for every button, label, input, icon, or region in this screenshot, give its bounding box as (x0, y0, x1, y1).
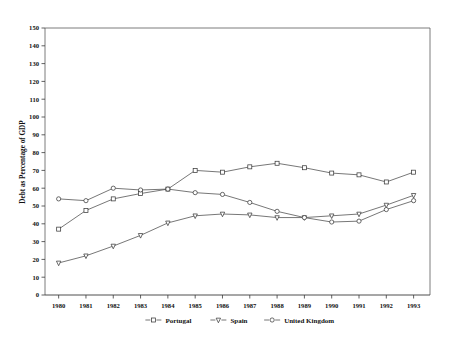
debt-percentage-gdp-line-chart: 0102030405060708090100110120130140150 19… (0, 0, 450, 344)
legend-marker-circle-icon (270, 318, 274, 322)
y-axis-tick-label: 30 (32, 238, 39, 245)
data-point-marker (166, 187, 170, 191)
data-series-group (56, 161, 415, 265)
data-point-marker (357, 173, 361, 177)
data-point-marker (412, 199, 416, 203)
x-axis-tick-label: 1986 (216, 302, 230, 309)
y-axis-tick-label: 110 (29, 96, 39, 103)
y-axis-tick-label: 90 (32, 131, 39, 138)
series-line (59, 195, 414, 263)
series-united-kingdom (57, 186, 416, 224)
x-axis-tick-label: 1983 (134, 302, 148, 309)
chart-container: 0102030405060708090100110120130140150 19… (0, 0, 450, 344)
x-axis-tick-label: 1980 (52, 302, 66, 309)
data-point-marker (56, 261, 60, 266)
y-axis-tick-label: 40 (32, 220, 39, 227)
x-axis-tick-label: 1993 (407, 302, 421, 309)
y-axis-tick-label: 60 (32, 185, 39, 192)
x-axis-tick-label: 1992 (380, 302, 394, 309)
x-axis-tick-label: 1987 (243, 302, 257, 309)
y-axis-tick-label: 0 (36, 291, 40, 298)
data-point-marker (111, 186, 115, 190)
legend-label: United Kingdom (284, 317, 334, 325)
data-point-marker (193, 191, 197, 195)
series-portugal (57, 161, 416, 231)
y-axis-tick-label: 130 (29, 60, 40, 67)
legend-marker-square-icon (151, 318, 155, 322)
data-point-marker (275, 216, 279, 221)
x-axis-tick-label: 1984 (161, 302, 175, 309)
data-point-marker (384, 180, 388, 184)
x-axis-tick-label: 1982 (107, 302, 121, 309)
y-axis-tick-label: 10 (32, 274, 39, 281)
data-point-marker (302, 166, 306, 170)
data-point-marker (275, 209, 279, 213)
legend-label: Portugal (165, 317, 191, 325)
x-axis-tick-label: 1981 (79, 302, 92, 309)
y-axis-tick-label: 120 (29, 78, 40, 85)
data-point-marker (193, 168, 197, 172)
series-line (59, 188, 414, 222)
x-axis-tick-label: 1985 (189, 302, 203, 309)
data-point-marker (138, 188, 142, 192)
data-point-marker (57, 227, 61, 231)
data-point-marker (220, 192, 224, 196)
data-point-marker (57, 197, 61, 201)
x-axis-tick-label: 1990 (325, 302, 339, 309)
y-axis-tick-label: 50 (32, 202, 39, 209)
data-point-marker (220, 170, 224, 174)
chart-legend: PortugalSpainUnited Kingdom (145, 317, 334, 325)
data-point-marker (330, 220, 334, 224)
legend-marker-triangle-down-icon (216, 318, 220, 323)
series-spain (56, 193, 415, 265)
y-axis-tick-label: 150 (29, 24, 40, 31)
data-point-marker (111, 197, 115, 201)
plot-frame (45, 28, 430, 295)
data-point-marker (302, 215, 306, 219)
y-axis-tick-label: 20 (32, 256, 39, 263)
y-axis-tick-label: 80 (32, 149, 39, 156)
x-axis: 1980198119821983198419851986198719881989… (52, 295, 421, 309)
x-axis-tick-label: 1988 (270, 302, 284, 309)
y-axis-tick-label: 100 (29, 113, 40, 120)
plot-border (45, 28, 430, 295)
x-axis-tick-label: 1991 (352, 302, 365, 309)
y-axis-tick-label: 140 (29, 42, 40, 49)
data-point-marker (84, 199, 88, 203)
legend-label: Spain (230, 317, 247, 325)
data-point-marker (248, 200, 252, 204)
y-axis: 0102030405060708090100110120130140150 (29, 24, 45, 298)
data-point-marker (384, 207, 388, 211)
legend-item-united-kingdom[interactable]: United Kingdom (264, 317, 334, 325)
data-point-marker (248, 165, 252, 169)
legend-item-spain[interactable]: Spain (210, 317, 247, 325)
data-point-marker (330, 171, 334, 175)
y-axis-title: Debt as Percentage of GDP (19, 120, 27, 204)
y-axis-tick-label: 70 (32, 167, 39, 174)
data-point-marker (275, 161, 279, 165)
data-point-marker (412, 170, 416, 174)
x-axis-tick-label: 1989 (298, 302, 312, 309)
data-point-marker (84, 208, 88, 212)
legend-item-portugal[interactable]: Portugal (145, 317, 191, 325)
data-point-marker (357, 219, 361, 223)
